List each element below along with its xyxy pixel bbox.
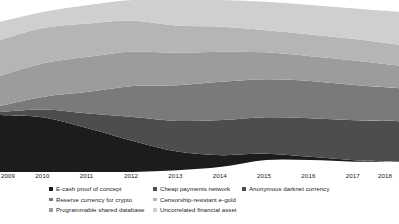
- legend-label: Cheap payments network: [160, 186, 230, 192]
- x-axis-tick: 2013: [168, 172, 182, 179]
- legend-item[interactable]: Cheap payments network: [153, 184, 237, 194]
- x-axis-tick: 2015: [257, 172, 271, 179]
- x-axis-tick: 2016: [301, 172, 315, 179]
- legend-swatch-icon: [153, 208, 157, 212]
- legend-label: Reserve currency for crypto: [56, 197, 132, 203]
- x-axis-tick: 2017: [346, 172, 360, 179]
- chart-legend: E-cash proof of conceptReserve currency …: [0, 184, 399, 224]
- stacked-area-plot: [0, 0, 399, 172]
- legend-swatch-icon: [49, 198, 53, 202]
- legend-swatch-icon: [49, 208, 53, 212]
- x-axis-tick: 2010: [35, 172, 49, 179]
- x-axis: 2009201020112012201320142015201620172018: [0, 172, 399, 184]
- plot-svg: [0, 0, 399, 172]
- x-axis-tick: 2014: [213, 172, 227, 179]
- legend-swatch-icon: [153, 187, 157, 191]
- x-axis-tick: 2012: [124, 172, 138, 179]
- legend-label: Anonymous darknet currency: [249, 186, 330, 192]
- x-axis-tick: 2018: [378, 172, 392, 179]
- legend-item[interactable]: Programmable shared database: [49, 205, 144, 215]
- legend-label: Programmable shared database: [56, 207, 144, 213]
- legend-column-2: Cheap payments networkCensorship-resista…: [153, 184, 237, 215]
- legend-item[interactable]: Censorship-resistant e-gold: [153, 194, 237, 204]
- legend-swatch-icon: [242, 187, 246, 191]
- legend-item[interactable]: Anonymous darknet currency: [242, 184, 330, 194]
- chart-figure: 2009201020112012201320142015201620172018…: [0, 0, 399, 224]
- legend-item[interactable]: E-cash proof of concept: [49, 184, 144, 194]
- legend-label: Uncorrelated financial asset: [160, 207, 237, 213]
- legend-swatch-icon: [49, 187, 53, 191]
- legend-item[interactable]: Uncorrelated financial asset: [153, 205, 237, 215]
- legend-swatch-icon: [153, 198, 157, 202]
- legend-column-3: Anonymous darknet currency: [242, 184, 330, 194]
- legend-item[interactable]: Reserve currency for crypto: [49, 194, 144, 204]
- x-axis-tick: 2011: [80, 172, 94, 179]
- x-axis-tick: 2009: [1, 172, 15, 179]
- legend-column-1: E-cash proof of conceptReserve currency …: [49, 184, 144, 215]
- legend-label: E-cash proof of concept: [56, 186, 122, 192]
- legend-label: Censorship-resistant e-gold: [160, 197, 236, 203]
